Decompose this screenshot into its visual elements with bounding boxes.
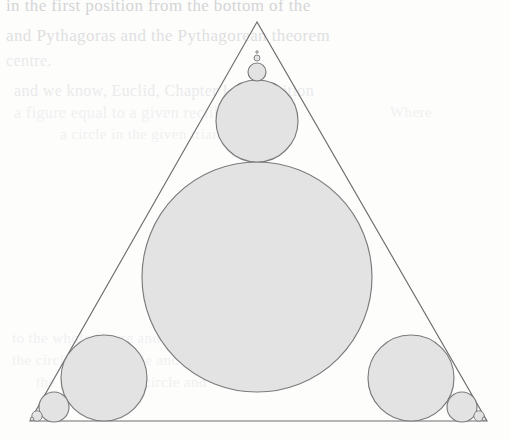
bottom-left-circle-1 (61, 335, 147, 421)
bottom-right-circle-4 (482, 417, 486, 421)
figure-circle-packing-in-triangle (0, 0, 509, 440)
apex-circle-4 (256, 51, 258, 53)
bottom-right-circle-2 (447, 392, 477, 422)
bottom-right-circle-1 (368, 335, 454, 421)
bottom-left-circle-4 (30, 417, 34, 421)
bottom-left-circle-2 (39, 392, 69, 422)
apex-circle-2 (248, 63, 266, 81)
figure-svg (0, 0, 509, 440)
apex-circle-3 (254, 55, 260, 61)
packed-circles-group (30, 51, 486, 422)
scanned-page: in the first position from the bottom of… (0, 0, 509, 440)
apex-circle-1 (216, 80, 298, 162)
incircle (142, 162, 372, 392)
